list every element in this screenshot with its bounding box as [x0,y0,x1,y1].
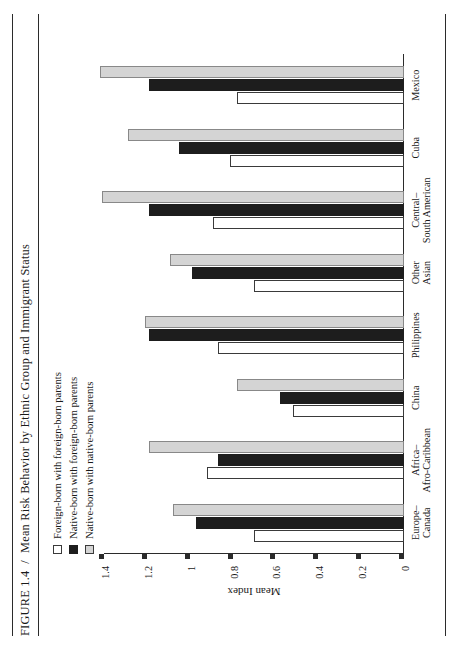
figure-title-separator: / [18,560,32,564]
y-axis-tick [356,554,361,559]
bar [173,504,404,516]
bar [149,204,404,216]
bar-group [104,316,404,354]
y-axis-tick-label: 1 [186,566,197,571]
legend-swatch-white-icon [53,545,62,554]
title-rule-top [12,14,13,636]
bar-group [104,379,404,417]
x-axis-category-label: Europe–Canada [410,505,433,540]
bar-group [104,441,404,479]
category-label-line: China [410,386,421,410]
bar [218,454,404,466]
bar [230,155,404,167]
legend-item-native-born-foreign-parents: Native-born with foreign-born parents [66,372,80,554]
bar [149,79,404,91]
y-axis-tick-label: 0.8 [229,566,240,579]
bar [170,254,404,266]
y-axis-tick-label: 1.4 [100,566,111,579]
legend-swatch-black-icon [69,545,78,554]
figure-title: FIGURE 1.4/Mean Risk Behavior by Ethnic … [18,244,33,636]
category-label-line: Other [410,261,421,285]
y-axis-title: Mean Index [228,586,281,598]
category-label-line: Canada [421,505,432,540]
plot-area: Mean Index 00.20.40.60.811.21.4 Europe–C… [104,54,404,554]
figure-title-text: Mean Risk Behavior by Ethnic Group and I… [18,244,32,553]
y-axis-tick [185,554,190,559]
title-rule-bottom [38,14,39,636]
legend-item-foreign-born-foreign-parents: Foreign-born with foreign-born parents [50,372,64,554]
bar [254,530,404,542]
legend-label: Native-born with foreign-born parents [68,377,79,539]
bar [102,191,404,203]
category-label-line: Mexico [410,70,421,101]
y-axis-tick [313,554,318,559]
bar [280,392,404,404]
bar [293,405,404,417]
bar [149,441,404,453]
bar [145,316,404,328]
bar-groups [104,54,404,554]
x-axis-category-label: China [410,386,421,410]
bar [192,267,404,279]
bar-group [104,254,404,292]
y-axis-tick [142,554,147,559]
bar-group [104,66,404,104]
bar [149,329,404,341]
category-label-line: Philippines [410,312,421,358]
category-label-line: Africa– [410,428,421,493]
y-axis-tick [399,554,404,559]
y-axis-tick [99,554,104,559]
x-axis-category-label: Africa–Afro-Caribbean [410,428,433,493]
bar [196,517,404,529]
bar [218,342,404,354]
bar [237,379,404,391]
x-axis-category-label: Central–South American [410,177,433,243]
legend-swatch-gray-icon [85,545,94,554]
bar [128,129,404,141]
category-label-line: Central– [410,177,421,243]
bar [254,280,404,292]
y-axis-tick-label: 0.6 [271,566,282,579]
figure-number: FIGURE 1.4 [18,571,32,636]
bar [179,142,404,154]
legend-item-native-born-native-parents: Native-born with native-born parents [82,372,96,554]
category-label-line: Cuba [410,137,421,159]
legend-label: Foreign-born with foreign-born parents [52,372,63,539]
figure-canvas: FIGURE 1.4/Mean Risk Behavior by Ethnic … [0,0,456,650]
chart-legend: Foreign-born with foreign-born parents N… [50,372,96,554]
bar-group [104,191,404,229]
category-label-line: Asian [421,261,432,285]
x-axis-category-label: OtherAsian [410,261,433,285]
figure-page: FIGURE 1.4/Mean Risk Behavior by Ethnic … [0,0,456,650]
bar-group [104,129,404,167]
y-axis-tick-label: 1.2 [143,566,154,579]
page-rule-bottom [445,14,446,636]
bar [237,92,404,104]
bar [100,66,404,78]
bar [207,467,404,479]
bar [213,217,404,229]
x-axis-category-label: Cuba [410,137,421,159]
y-axis-tick [270,554,275,559]
x-axis-category-label: Philippines [410,312,421,358]
y-axis-tick [228,554,233,559]
category-label-line: Afro-Caribbean [421,428,432,493]
bar-group [104,504,404,542]
x-axis-category-label: Mexico [410,70,421,101]
y-axis-tick-label: 0.4 [314,566,325,579]
legend-label: Native-born with native-born parents [84,382,95,539]
y-axis-tick-label: 0.2 [357,566,368,579]
y-axis-tick-label: 0 [400,566,411,571]
category-label-line: South American [421,177,432,243]
category-label-line: Europe– [410,505,421,540]
